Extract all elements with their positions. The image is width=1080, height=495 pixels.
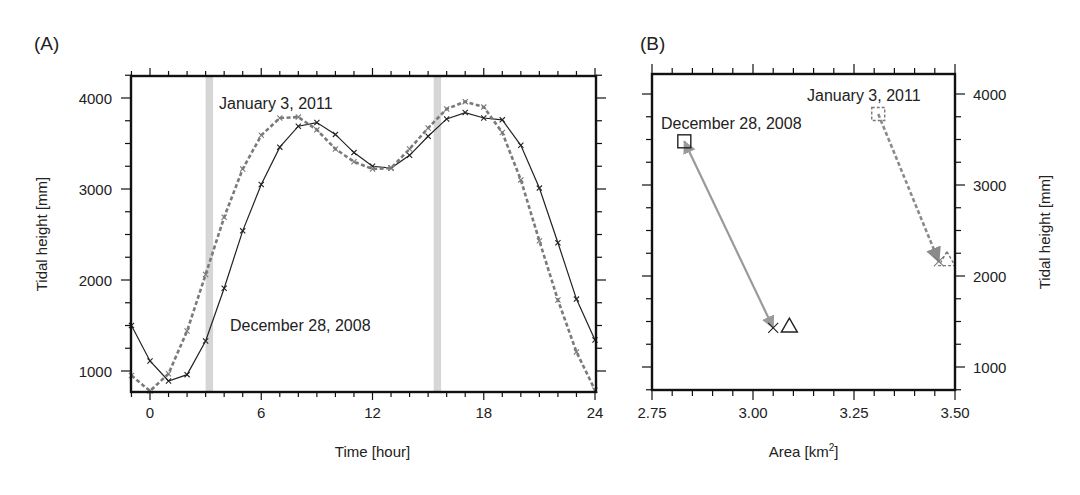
y-tick-label: 1000 <box>973 359 1006 376</box>
triangle-marker <box>781 318 797 332</box>
series-dec-28-2008 <box>678 135 798 333</box>
series-jan-3-2011 <box>872 108 955 267</box>
x-tick-label: 3.50 <box>940 404 969 421</box>
y-tick-label: 4000 <box>79 90 112 107</box>
y-axis-title: Tidal height [mm] <box>33 177 50 292</box>
annotation-jan-3-2011: January 3, 2011 <box>807 87 921 104</box>
cross-marker <box>333 132 338 137</box>
cross-marker <box>259 182 264 187</box>
trajectory-arrow <box>684 141 773 328</box>
cross-marker <box>277 145 282 150</box>
x-tick-label: 0 <box>146 404 154 421</box>
cross-marker <box>351 150 356 155</box>
x-tick-label: 3.00 <box>738 404 767 421</box>
series-dec-28-2008 <box>129 110 598 384</box>
panel-b-area-vs-height: (B)2.753.003.253.501000200030004000Area … <box>637 33 1053 460</box>
annotation-jan-3-2011: January 3, 2011 <box>219 95 333 112</box>
y-axis-title: Tidal height [mm] <box>1036 175 1053 290</box>
cross-marker <box>147 358 152 363</box>
y-tick-label: 2000 <box>79 272 112 289</box>
series-line <box>131 113 595 381</box>
y-tick-label: 4000 <box>973 86 1006 103</box>
annotation-dec-28-2008: December 28, 2008 <box>230 317 371 334</box>
trajectory-arrow <box>878 114 939 261</box>
x-tick-label: 12 <box>364 404 381 421</box>
shaded-band <box>434 76 441 392</box>
figure: (A)061218241000200030004000Time [hour]Ti… <box>0 0 1080 495</box>
cross-marker <box>426 134 431 139</box>
x-axis-title: Time [hour] <box>335 443 410 460</box>
cross-marker <box>407 153 412 158</box>
x-tick-label: 6 <box>257 404 265 421</box>
y-tick-label: 3000 <box>79 181 112 198</box>
cross-marker <box>518 143 523 148</box>
annotation-dec-28-2008: December 28, 2008 <box>661 115 802 132</box>
x-tick-label: 18 <box>475 404 492 421</box>
y-tick-label: 1000 <box>79 363 112 380</box>
y-tick-label: 2000 <box>973 268 1006 285</box>
panel-a-tide-timeseries: (A)061218241000200030004000Time [hour]Ti… <box>33 33 606 460</box>
x-tick-label: 3.25 <box>839 404 868 421</box>
series-line <box>131 102 595 391</box>
y-tick-label: 3000 <box>973 177 1006 194</box>
x-axis-title: Area [km2] <box>769 442 839 460</box>
panel-label: (A) <box>34 33 59 54</box>
panel-label: (B) <box>640 33 665 54</box>
shaded-band <box>206 76 213 392</box>
cross-marker <box>768 323 778 333</box>
x-tick-label: 2.75 <box>637 404 666 421</box>
x-tick-label: 24 <box>587 404 604 421</box>
plot-frame <box>131 76 596 392</box>
series-jan-3-2011 <box>129 99 598 394</box>
